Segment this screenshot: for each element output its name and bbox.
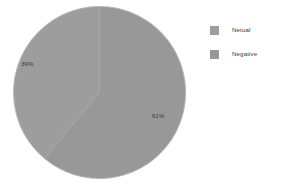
legend-swatch-icon-netual: [210, 26, 219, 35]
pie-chart-figure: 39% 61% Netual Negative: [0, 0, 288, 185]
legend-item-negative[interactable]: Negative: [210, 48, 286, 60]
legend-label-negative: Negative: [232, 51, 257, 57]
legend-swatch-icon-negative: [210, 50, 219, 59]
legend-item-netual[interactable]: Netual: [210, 24, 286, 36]
chart-legend: Netual Negative: [210, 24, 286, 72]
pie-svg: [0, 0, 200, 185]
pie-plot-area: 39% 61%: [0, 0, 200, 185]
legend-label-netual: Netual: [232, 27, 251, 33]
slice-value-label-negative: 61%: [152, 113, 165, 119]
slice-value-label-netual: 39%: [21, 61, 34, 67]
